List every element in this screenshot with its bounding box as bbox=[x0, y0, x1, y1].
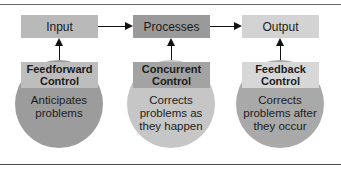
feedback-control-box: Feedback Control bbox=[242, 62, 319, 88]
feedforward-control-title: Feedforward Control bbox=[21, 63, 98, 87]
output-box: Output bbox=[242, 15, 319, 38]
processes-box: Processes bbox=[133, 15, 210, 38]
concurrent-control-box: Concurrent Control bbox=[133, 62, 210, 88]
concurrent-control-title: Concurrent Control bbox=[133, 63, 210, 87]
input-box: Input bbox=[21, 15, 98, 38]
arrow-right-icon bbox=[234, 22, 242, 30]
arrow-up-icon bbox=[55, 38, 63, 46]
arrow-up-icon bbox=[167, 38, 175, 46]
feedback-control-title: Feedback Control bbox=[242, 63, 319, 87]
feedforward-description: Anticipates problems bbox=[28, 94, 90, 120]
arrow-processes-to-output-line bbox=[210, 26, 234, 27]
input-label: Input bbox=[46, 20, 73, 34]
arrow-input-to-processes-line bbox=[98, 26, 125, 27]
output-label: Output bbox=[262, 20, 298, 34]
feedforward-control-box: Feedforward Control bbox=[21, 62, 98, 88]
feedback-description: Corrects problems after they occur bbox=[239, 94, 321, 133]
processes-label: Processes bbox=[143, 20, 199, 34]
top-rule bbox=[0, 4, 341, 5]
concurrent-description: Corrects problems as they happen bbox=[136, 94, 206, 133]
arrow-up-icon bbox=[276, 38, 284, 46]
bottom-rule bbox=[0, 164, 341, 165]
arrow-right-icon bbox=[125, 22, 133, 30]
